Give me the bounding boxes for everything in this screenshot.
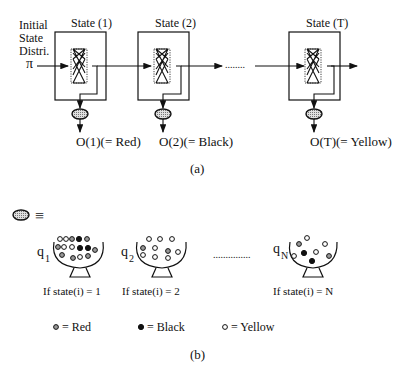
svg-text:If state(i) = 1: If state(i) = 1 xyxy=(43,285,101,298)
black-ball-icon xyxy=(138,324,143,329)
svg-text:q: q xyxy=(273,241,280,256)
svg-text:O(T)(= Yellow): O(T)(= Yellow) xyxy=(310,134,392,149)
svg-text:State (T): State (T) xyxy=(306,16,348,30)
emission-icon xyxy=(13,210,29,220)
red-ball-icon xyxy=(54,325,59,330)
initial-distribution-label: Initial State Distri. π xyxy=(19,18,49,71)
sublabel-a: (a) xyxy=(190,161,204,176)
emission-icon xyxy=(72,109,88,119)
emission-icon xyxy=(306,109,322,119)
svg-text:N: N xyxy=(281,250,288,261)
svg-text:If state(i) = 2: If state(i) = 2 xyxy=(122,285,180,298)
svg-text:q: q xyxy=(121,244,128,259)
transition-icon xyxy=(71,49,87,83)
sublabel-b: (b) xyxy=(190,347,205,362)
svg-text:= Yellow: = Yellow xyxy=(231,320,275,334)
transition-icon xyxy=(154,49,170,83)
chain-ellipsis: ........ xyxy=(181,59,304,70)
pi-symbol: π xyxy=(26,56,33,71)
emission-icon xyxy=(155,109,171,119)
state-2: State (2) O(2)(= Black) xyxy=(97,16,233,149)
yellow-ball-icon xyxy=(223,325,228,330)
svg-text:........: ........ xyxy=(225,59,245,70)
svg-text:≡: ≡ xyxy=(35,207,44,224)
hmm-diagram: Initial State Distri. π State (1) O(1)(=… xyxy=(0,0,418,375)
transition-icon xyxy=(305,49,321,83)
svg-text:O(1)(= Red): O(1)(= Red) xyxy=(76,134,141,149)
state-t: State (T) O(T)(= Yellow) xyxy=(289,16,392,149)
urn-qn: q N If state(i) = N xyxy=(273,236,337,298)
svg-text:q: q xyxy=(37,244,44,259)
urn-q2: q 2 If state(i) = 2 xyxy=(121,237,186,298)
svg-text:Initial: Initial xyxy=(19,18,48,32)
svg-text:1: 1 xyxy=(45,253,50,264)
svg-text:State: State xyxy=(19,31,43,45)
svg-text:If state(i) = N: If state(i) = N xyxy=(273,285,333,298)
svg-text:State (1): State (1) xyxy=(71,16,112,30)
state-1: State (1) O(1)(= Red) xyxy=(37,16,141,149)
urn-q1: q 1 If state(i) = 1 xyxy=(37,236,103,298)
svg-text:Distri.: Distri. xyxy=(19,44,49,58)
legend: = Red = Black = Yellow xyxy=(54,320,275,334)
svg-text:= Black: = Black xyxy=(147,320,185,334)
svg-text:State (2): State (2) xyxy=(155,16,196,30)
svg-text:2: 2 xyxy=(129,253,134,264)
urn-ellipsis: ............... xyxy=(213,249,251,260)
emission-equivalence: ≡ xyxy=(13,207,44,224)
cropped-caption xyxy=(14,366,414,375)
svg-text:= Red: = Red xyxy=(62,320,91,334)
svg-text:O(2)(= Black): O(2)(= Black) xyxy=(159,134,233,149)
